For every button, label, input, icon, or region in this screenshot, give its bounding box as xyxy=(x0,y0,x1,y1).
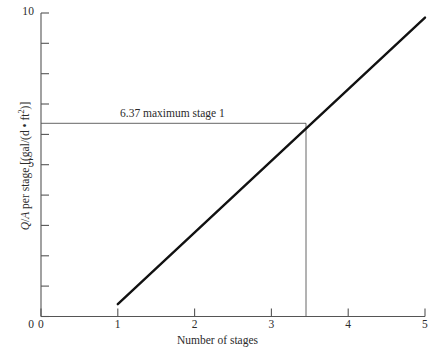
y-axis-ticks xyxy=(41,13,49,317)
y-axis-title-symbol-a: A xyxy=(19,212,31,219)
y-tick-label-10: 10 xyxy=(12,5,34,17)
data-series-line xyxy=(118,18,425,305)
y-axis-title-close: )] xyxy=(19,102,31,110)
x-tick-label-0: 0 xyxy=(31,318,51,330)
y-axis-title-exponent: 2 xyxy=(17,109,26,113)
chart-figure: 10 5 0 0 1 2 3 4 5 Number of stages Q/A … xyxy=(0,0,435,354)
y-axis-title-slash: / xyxy=(19,219,31,222)
x-tick-label-2: 2 xyxy=(185,318,205,330)
chart-plot-area xyxy=(0,0,435,354)
x-axis-title: Number of stages xyxy=(0,334,435,346)
y-axis-title: Q/A per stage [(gal/(d • ft2)] xyxy=(19,66,31,266)
x-tick-label-5: 5 xyxy=(415,318,435,330)
x-tick-label-3: 3 xyxy=(261,318,281,330)
x-tick-label-1: 1 xyxy=(108,318,128,330)
y-axis-title-rest: per stage [(gal/(d • ft xyxy=(19,114,31,212)
annotation-label-max-stage: 6.37 maximum stage 1 xyxy=(120,107,225,119)
x-axis-ticks xyxy=(41,309,425,317)
x-tick-label-4: 4 xyxy=(338,318,358,330)
y-axis-title-symbol-q: Q xyxy=(19,222,31,230)
